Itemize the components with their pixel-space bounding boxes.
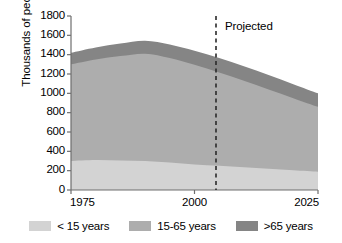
legend-item[interactable]: < 15 years (29, 220, 109, 232)
x-axis-ticks (71, 190, 318, 194)
y-tick-label: 600 (18, 125, 65, 137)
legend-label: < 15 years (57, 220, 109, 232)
y-tick-label: 1000 (18, 86, 65, 98)
x-tick-label: 1975 (70, 196, 130, 208)
x-tick-label: 2025 (259, 196, 319, 208)
chart-container: Thousands of people 18001600140012001000… (0, 0, 342, 243)
legend-swatch (129, 221, 151, 231)
y-tick-label: 0 (18, 183, 65, 195)
x-tick-label: 2000 (165, 196, 225, 208)
chart-legend: < 15 years15-65 years>65 years (0, 216, 342, 236)
projection-annotation-label: Projected (225, 20, 273, 32)
legend-swatch (236, 221, 258, 231)
legend-label: 15-65 years (157, 220, 216, 232)
legend-item[interactable]: >65 years (236, 220, 313, 232)
y-tick-label: 1400 (18, 47, 65, 59)
y-tick-label: 800 (18, 105, 65, 117)
y-tick-label: 200 (18, 163, 65, 175)
y-tick-label: 1200 (18, 67, 65, 79)
y-tick-label: 400 (18, 144, 65, 156)
legend-item[interactable]: 15-65 years (129, 220, 216, 232)
plot-areas (71, 41, 318, 190)
y-tick-label: 1600 (18, 28, 65, 40)
y-tick-label: 1800 (18, 9, 65, 21)
legend-label: >65 years (264, 220, 313, 232)
legend-swatch (29, 221, 51, 231)
